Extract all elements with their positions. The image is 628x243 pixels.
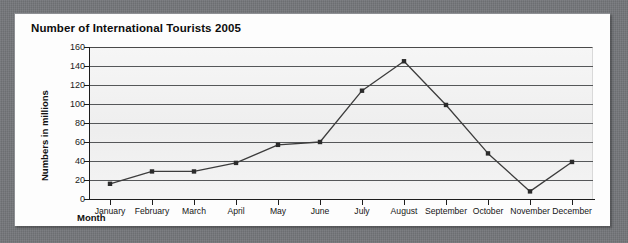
x-axis-tick-label: January — [95, 206, 126, 216]
x-axis-tick-mark — [110, 200, 111, 205]
x-axis-tick-label: December — [552, 206, 592, 216]
x-axis-tick-mark — [194, 200, 195, 205]
x-axis-tick-label: May — [270, 206, 286, 216]
data-point-marker — [360, 89, 364, 93]
screenshot-root: Number of International Tourists 2005 Nu… — [0, 0, 628, 243]
data-point-marker — [528, 189, 532, 193]
y-axis-tick-label: 160 — [70, 42, 85, 52]
data-point-marker — [192, 169, 196, 173]
data-point-marker — [276, 143, 280, 147]
data-point-marker — [234, 161, 238, 165]
x-axis-tick-mark — [278, 200, 279, 205]
x-axis-tick-mark — [404, 200, 405, 205]
chart-plot-area: Numbers in millions Month 02040608010012… — [15, 14, 611, 227]
data-point-marker — [108, 182, 112, 186]
x-axis-tick-mark — [152, 200, 153, 205]
x-axis-tick-label: April — [227, 206, 244, 216]
x-axis-tick-mark — [446, 200, 447, 205]
x-axis-tick-label: July — [354, 206, 369, 216]
x-axis-tick-label: November — [510, 206, 550, 216]
x-axis-tick-label: October — [473, 206, 504, 216]
y-axis-tick-labels: 020406080100120140160 — [59, 47, 85, 199]
data-point-marker — [402, 59, 406, 63]
series-line — [110, 61, 572, 191]
x-axis-line — [89, 199, 595, 200]
y-axis-tick-label: 100 — [70, 99, 85, 109]
x-axis-tick-mark — [236, 200, 237, 205]
x-axis-tick-label: August — [391, 206, 418, 216]
chart-card: Number of International Tourists 2005 Nu… — [14, 13, 610, 226]
x-axis-tick-label: September — [425, 206, 467, 216]
y-axis-tick-mark — [84, 199, 89, 200]
data-point-marker — [444, 103, 448, 107]
x-axis-tick-mark — [572, 200, 573, 205]
x-axis-tick-mark — [362, 200, 363, 205]
data-point-marker — [318, 140, 322, 144]
data-point-marker — [150, 169, 154, 173]
data-point-marker — [570, 160, 574, 164]
y-axis-tick-label: 120 — [70, 80, 85, 90]
tourists-line-series — [89, 47, 593, 199]
x-axis-tick-label: February — [135, 206, 169, 216]
y-axis-tick-label: 140 — [70, 61, 85, 71]
x-axis-tick-mark — [488, 200, 489, 205]
y-axis-title: Numbers in millions — [37, 76, 51, 196]
x-axis-tick-label: June — [311, 206, 330, 216]
x-axis-tick-mark — [530, 200, 531, 205]
x-axis-tick-mark — [320, 200, 321, 205]
x-axis-tick-label: March — [182, 206, 206, 216]
data-point-marker — [486, 151, 490, 155]
